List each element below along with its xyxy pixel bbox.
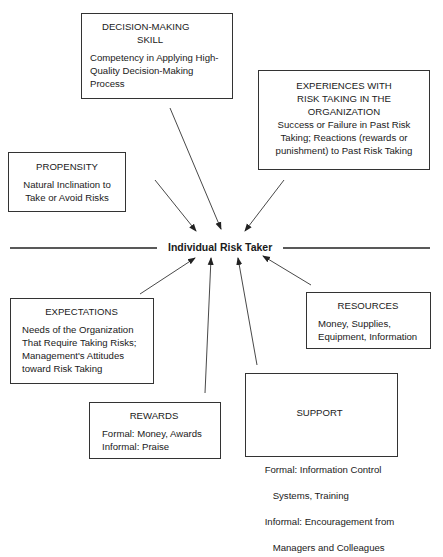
box-body: Success or Failure in Past Risk Taking; … bbox=[263, 118, 425, 157]
box-title: SUPPORT bbox=[254, 406, 393, 419]
center-label: Individual Risk Taker bbox=[168, 241, 272, 253]
box-body: Needs of the Organization That Require T… bbox=[22, 323, 149, 375]
arrow-expectations bbox=[140, 258, 195, 294]
arrow-experiences bbox=[245, 180, 284, 231]
box-body: Formal: Information Control Systems, Tra… bbox=[254, 450, 393, 557]
arrow-propensity bbox=[155, 180, 196, 231]
box-support: SUPPORT Formal: Information Control Syst… bbox=[245, 373, 398, 457]
box-decision-making: DECISION-MAKING SKILL Competency in Appl… bbox=[81, 13, 233, 99]
box-experiences: EXPERIENCES WITH RISK TAKING IN THE ORGA… bbox=[258, 70, 430, 170]
box-title: REWARDS bbox=[102, 409, 216, 422]
box-expectations: EXPECTATIONS Needs of the Organization T… bbox=[10, 298, 154, 384]
box-body: Competency in Applying High- Quality Dec… bbox=[90, 51, 228, 90]
box-body: Formal: Money, Awards Informal: Praise bbox=[102, 427, 216, 453]
box-title: EXPERIENCES WITH RISK TAKING IN THE ORGA… bbox=[263, 79, 425, 118]
arrow-resources bbox=[263, 256, 311, 285]
box-title: EXPECTATIONS bbox=[22, 305, 149, 318]
box-propensity: PROPENSITY Natural Inclination to Take o… bbox=[8, 152, 126, 212]
arrow-decision-making bbox=[170, 108, 221, 229]
arrow-rewards bbox=[205, 258, 211, 393]
box-title: RESOURCES bbox=[318, 299, 426, 312]
box-title: DECISION-MAKING SKILL bbox=[90, 20, 228, 46]
box-body: Natural Inclination to Take or Avoid Ris… bbox=[13, 178, 121, 204]
box-resources: RESOURCES Money, Supplies, Equipment, In… bbox=[306, 292, 431, 349]
box-body: Money, Supplies, Equipment, Information bbox=[318, 317, 426, 343]
box-title: PROPENSITY bbox=[13, 160, 121, 173]
arrow-support bbox=[238, 258, 257, 365]
box-rewards: REWARDS Formal: Money, Awards Informal: … bbox=[89, 402, 221, 459]
